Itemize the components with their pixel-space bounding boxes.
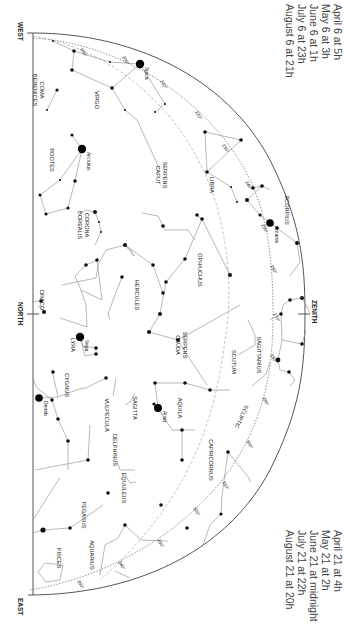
time-row: August 6 at 21h: [284, 4, 296, 78]
constellation-label: SCORPIUS: [284, 195, 290, 224]
constellation-label: SAGITTA: [132, 396, 138, 420]
constellation-label: SERPENS: [162, 162, 168, 189]
ecliptic-degree: 220°: [194, 110, 203, 121]
ecliptic-degree: 300°: [245, 439, 254, 450]
time-row: June 6 at 1h: [308, 4, 320, 78]
time-row: June 21 at midnight: [308, 530, 320, 622]
star-label: Antares: [274, 226, 280, 244]
time-row: April 6 at 5h: [332, 4, 344, 78]
ecliptic-and-equator: [30, 36, 273, 590]
ecliptic-degree: 330°: [156, 538, 165, 549]
star-antares: [266, 219, 274, 227]
constellation-label: EQUULEUS: [121, 473, 127, 504]
constellation-label: LYRA: [70, 338, 76, 352]
north-label: NORTH: [17, 302, 24, 325]
constellation-label: CAUDA: [175, 335, 181, 355]
time-row: August 21 at 20h: [284, 530, 296, 622]
star-deneb: [35, 394, 43, 402]
ecliptic-degree: 200°: [121, 55, 130, 66]
constellation-label: HERCULES: [134, 280, 140, 311]
constellation-label: SERPENS: [182, 332, 188, 359]
constellation-label: DELPHINUS: [112, 434, 118, 466]
constellation-label: SAGITTARIUS: [256, 337, 262, 374]
time-row: July 6 at 23h: [296, 4, 308, 78]
constellation-label: PISCES: [56, 548, 62, 569]
ecliptic-degree: 340°: [117, 560, 126, 571]
ecliptic-degree: 190°: [79, 47, 88, 58]
west-label: WEST: [17, 22, 24, 41]
constellation-lines: [32, 41, 310, 582]
sky-boundary-arc: [28, 33, 305, 595]
star-label: Arcturus: [86, 152, 92, 171]
ecliptic-degree: 350°: [76, 579, 85, 590]
constellation-label: VULPECULA: [104, 398, 110, 432]
constellation-label: SCUTUM: [231, 350, 237, 374]
bright-stars: SpicaArcturusAntaresVegaDenebAltair: [35, 60, 280, 423]
constellation-label: VIRGO: [94, 91, 100, 110]
time-row: April 21 at 4h: [332, 530, 344, 622]
constellation-label: CYGNUS: [64, 373, 70, 397]
star-label: Deneb: [43, 401, 49, 416]
time-row: May 21 at 2h: [320, 530, 332, 622]
constellation-label: LIBRA: [209, 177, 215, 193]
star-label: Spica: [144, 67, 150, 80]
star-arcturus: [78, 145, 86, 153]
time-row: July 21 at 22h: [296, 530, 308, 622]
ecliptic-label: ECLIPTIC: [234, 405, 250, 430]
constellation-label: AQUILA: [177, 398, 183, 419]
star-altair: [154, 404, 162, 412]
star-label: Vega: [84, 340, 90, 352]
east-label: EAST: [17, 598, 24, 615]
ecliptic-degree: 260°: [269, 264, 278, 275]
constellation-label: OPHIUCHUS: [197, 253, 203, 287]
constellation-label: CAPUT: [155, 166, 161, 186]
times-bottom: April 21 at 4h May 21 at 2h June 21 at m…: [284, 530, 344, 622]
constellation-label: PEGASUS: [81, 501, 87, 528]
constellation-label: CAPRICORNUS: [208, 439, 214, 481]
ecliptic-degree: 210°: [159, 79, 168, 90]
times-top: April 6 at 5h May 6 at 3h June 6 at 1h J…: [284, 4, 344, 78]
minor-stars: [38, 40, 304, 533]
star-vega: [76, 333, 84, 341]
zenith-label: ZENITH: [311, 300, 318, 324]
constellation-label: COMA: [39, 82, 45, 99]
star-spica: [136, 60, 144, 68]
ecliptic-degree: 320°: [192, 506, 201, 517]
constellation-label: DRACO: [39, 290, 45, 311]
chart-frame: [27, 33, 310, 595]
ecliptic-line: [30, 38, 273, 590]
constellation-label: CORONA: [84, 213, 90, 238]
constellation-label: BOOTES: [49, 148, 55, 172]
time-row: May 6 at 3h: [320, 4, 332, 78]
constellation-label: AQUARIUS: [89, 540, 95, 569]
ecliptic-degree: 230°: [221, 143, 230, 154]
constellation-label: BOREALIS: [77, 211, 83, 239]
constellation-label: BERENICES: [32, 74, 38, 107]
star-label: Altair: [162, 411, 168, 423]
